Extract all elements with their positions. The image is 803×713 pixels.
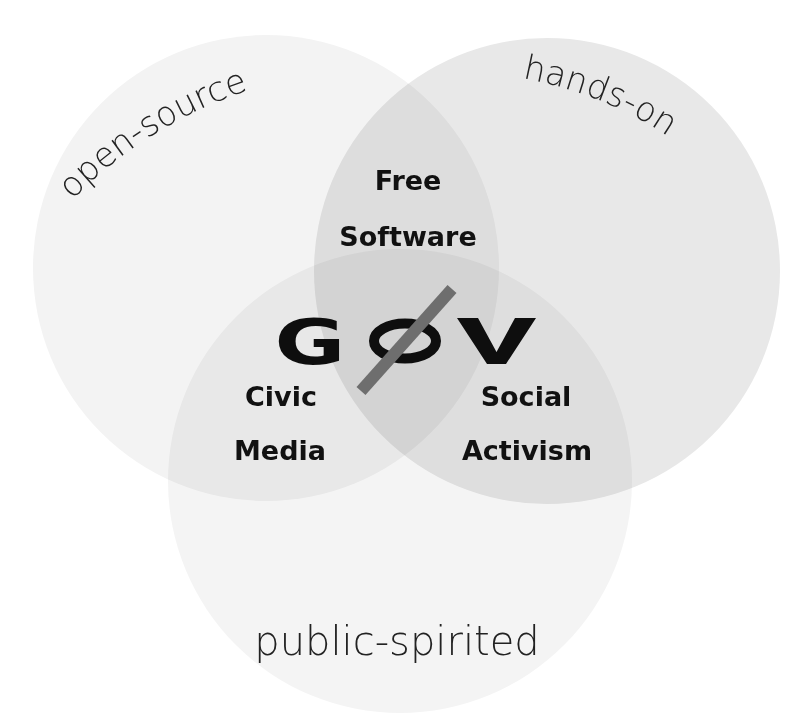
region-label-activism: Activism <box>462 435 592 466</box>
region-label-civic: Civic <box>245 381 317 412</box>
region-label-social: Social <box>481 381 572 412</box>
venn-diagram: open-source hands-on public-spirited Fre… <box>0 0 803 713</box>
region-label-media: Media <box>234 435 326 466</box>
region-label-software: Software <box>339 221 476 252</box>
set-label-public-spirited: public-spirited <box>254 618 539 664</box>
region-label-free: Free <box>375 165 442 196</box>
logo-letter-g: G <box>275 306 346 379</box>
